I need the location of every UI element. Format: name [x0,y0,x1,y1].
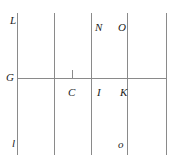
point-label-G: G [6,72,14,83]
point-label-O: O [118,22,126,33]
geometry-figure: L N O G C I K l o [0,0,180,165]
point-label-I: I [97,87,101,98]
point-label-L: L [10,15,16,26]
vertical-line-3 [91,13,92,155]
vertical-line-5 [166,13,167,155]
point-label-N: N [95,22,102,33]
point-label-C: C [68,87,75,98]
vertical-line-2 [54,13,55,155]
vertical-line-4 [127,13,128,155]
vertical-line-1 [17,13,18,155]
point-label-o: o [118,139,124,150]
point-label-K: K [120,87,127,98]
point-label-l: l [12,138,15,149]
tick-mark-c [72,70,73,79]
horizontal-line-1 [17,78,167,79]
